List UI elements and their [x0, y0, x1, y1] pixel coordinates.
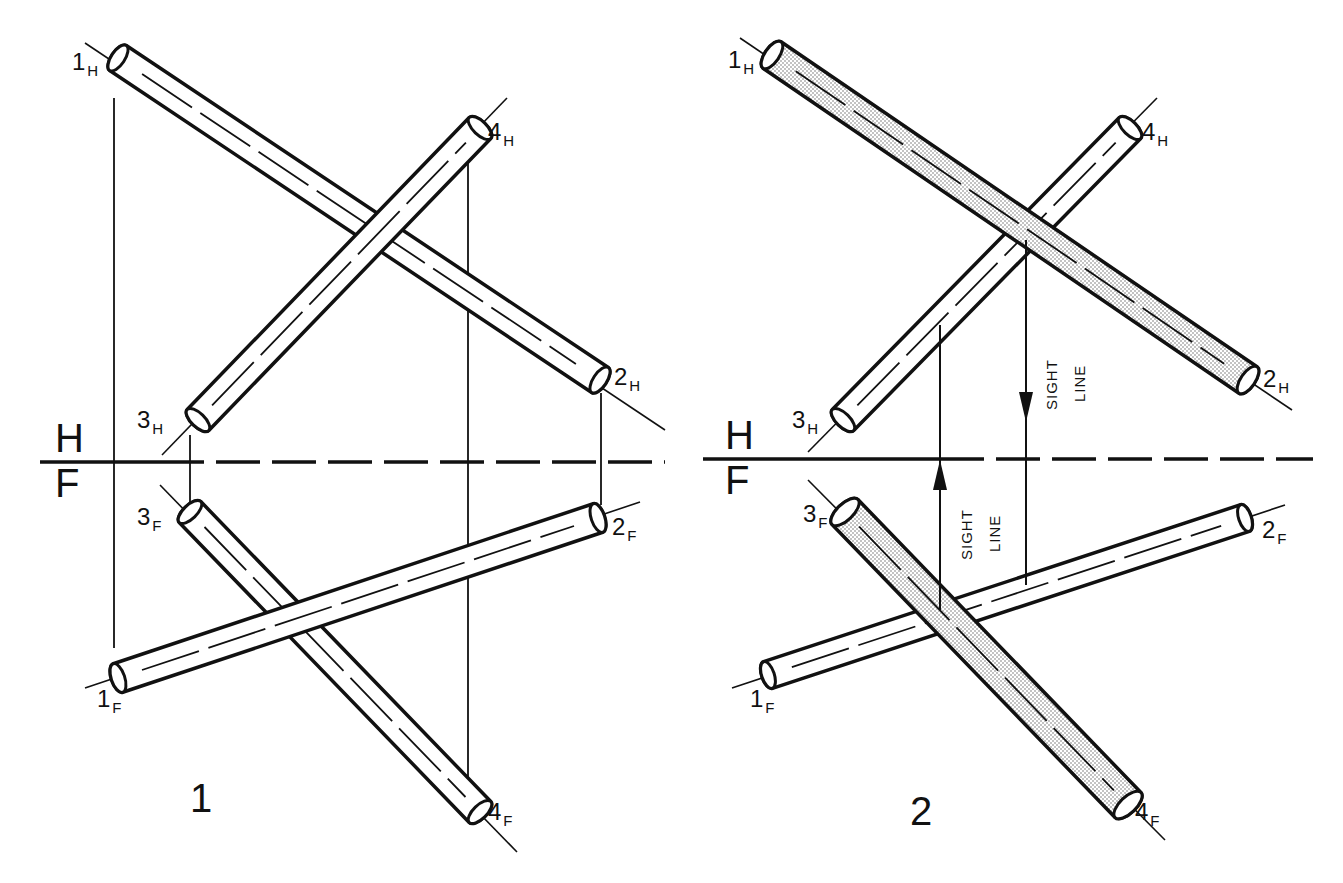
point-label-1h: 1H	[728, 46, 754, 77]
point-label-2h: 2H	[1263, 365, 1289, 396]
pipe-1-2-H	[740, 38, 1292, 410]
hf-label-h: H	[55, 416, 84, 460]
figure-number: 1	[190, 776, 212, 820]
point-label-4f: 4F	[1135, 798, 1160, 829]
arrow-up-icon	[933, 460, 947, 490]
hf-label-f: F	[55, 461, 79, 505]
point-label-2h: 2H	[614, 363, 640, 394]
pipe-1-2-F	[85, 502, 640, 695]
figure-1: HF1H4H2H3H3F2F1F4F1	[40, 42, 665, 852]
point-label-2f: 2F	[612, 513, 637, 544]
point-label-3f: 3F	[137, 503, 162, 534]
hf-label-h: H	[725, 413, 754, 457]
arrow-down-icon	[1019, 392, 1033, 422]
diagram-canvas: HF1H4H2H3H3F2F1F4F1 HFSIGHTLINESIGHTLINE…	[0, 0, 1343, 883]
sight-line: SIGHTLINE	[1019, 240, 1088, 585]
point-label-4h: 4H	[488, 118, 514, 149]
hf-label-f: F	[725, 458, 749, 502]
svg-text:LINE: LINE	[986, 515, 1003, 552]
svg-text:SIGHT: SIGHT	[958, 509, 975, 560]
point-label-3h: 3H	[792, 406, 818, 437]
svg-text:SIGHT: SIGHT	[1043, 359, 1060, 410]
svg-text:LINE: LINE	[1071, 365, 1088, 402]
point-label-4h: 4H	[1142, 118, 1168, 149]
pipe-3-4-F	[160, 485, 517, 852]
pipe-axis	[142, 74, 576, 364]
point-label-4f: 4F	[488, 798, 513, 829]
point-label-1h: 1H	[72, 48, 98, 79]
sight-line: SIGHTLINE	[933, 325, 1003, 610]
point-label-3f: 3F	[803, 500, 828, 531]
point-label-3h: 3H	[137, 406, 163, 437]
figure-2: HFSIGHTLINESIGHTLINE1H4H2H3H3F2F1F4F2	[703, 38, 1313, 840]
point-label-2f: 2F	[1262, 516, 1287, 547]
pipe-axis	[796, 71, 1224, 364]
figure-number: 2	[910, 789, 932, 833]
